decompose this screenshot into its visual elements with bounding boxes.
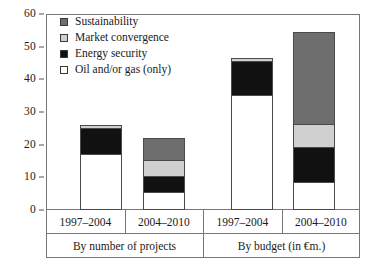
y-axis-tick-mark — [39, 112, 44, 113]
bar-segment-energy-security[interactable] — [81, 129, 121, 155]
y-axis-tick-label: 0 — [30, 204, 36, 216]
legend-swatch-icon — [60, 18, 68, 26]
x-axis-right-border — [359, 210, 360, 258]
legend-swatch-icon — [60, 50, 68, 58]
legend-swatch-icon — [60, 34, 68, 42]
x-axis-category-labels: 1997–20042004–20101997–20042004–2010 — [46, 210, 360, 234]
y-axis-tick-label: 20 — [24, 139, 36, 151]
bar-4[interactable] — [293, 32, 335, 210]
x-axis-separator-2 — [203, 210, 204, 234]
chart-legend: SustainabilityMarket convergenceEnergy s… — [60, 16, 171, 76]
legend-item-label: Sustainability — [75, 16, 138, 28]
bar-segment-oil-and-or-gas-only[interactable] — [232, 96, 272, 209]
x-axis-category-label-1: 1997–2004 — [46, 210, 125, 234]
y-axis-tick-mark — [39, 14, 44, 15]
x-axis-group-label-2: By budget (in €m.) — [203, 234, 360, 258]
bar-segment-energy-security[interactable] — [294, 148, 334, 184]
y-axis-tick-label: 60 — [24, 8, 36, 20]
bar-segment-energy-security[interactable] — [232, 62, 272, 96]
y-axis-tick-mark — [39, 177, 44, 178]
legend-item-3[interactable]: Oil and/or gas (only) — [60, 64, 171, 76]
y-axis-tick-mark — [39, 46, 44, 47]
bar-segment-market-convergence[interactable] — [144, 161, 184, 177]
bar-segment-oil-and-or-gas-only[interactable] — [144, 193, 184, 209]
x-axis-category-label-4: 2004–2010 — [282, 210, 361, 234]
stacked-bar-chart: 6050403020100 SustainabilityMarket conve… — [0, 0, 381, 280]
legend-swatch-icon — [60, 66, 68, 74]
bar-segment-energy-security[interactable] — [144, 177, 184, 193]
x-axis-group-separator — [203, 234, 204, 258]
bar-3[interactable] — [231, 58, 273, 210]
legend-item-0[interactable]: Sustainability — [60, 16, 171, 28]
legend-item-label: Market convergence — [75, 32, 169, 44]
bar-segment-oil-and-or-gas-only[interactable] — [294, 183, 334, 209]
y-axis-tick-label: 40 — [24, 74, 36, 86]
bar-segment-market-convergence[interactable] — [294, 125, 334, 148]
y-axis: 6050403020100 — [0, 0, 46, 215]
bar-1[interactable] — [80, 125, 122, 210]
y-axis-tick-label: 50 — [24, 41, 36, 53]
legend-item-2[interactable]: Energy security — [60, 48, 171, 60]
bar-segment-sustainability[interactable] — [144, 139, 184, 161]
y-axis-tick-label: 30 — [24, 106, 36, 118]
legend-item-label: Energy security — [75, 48, 147, 60]
bar-segment-oil-and-or-gas-only[interactable] — [81, 155, 121, 209]
x-axis-category-label-2: 2004–2010 — [125, 210, 204, 234]
x-axis-separator-1 — [125, 210, 126, 234]
bar-segment-sustainability[interactable] — [294, 33, 334, 125]
x-axis-group-labels: By number of projectsBy budget (in €m.) — [46, 234, 360, 258]
x-axis-separator-3 — [282, 210, 283, 234]
y-axis-tick-label: 10 — [24, 172, 36, 184]
y-axis-tick-mark — [39, 210, 44, 211]
x-axis-left-border — [46, 210, 47, 258]
bar-2[interactable] — [143, 138, 185, 210]
x-axis-group-label-1: By number of projects — [46, 234, 203, 258]
y-axis-tick-mark — [39, 144, 44, 145]
legend-item-label: Oil and/or gas (only) — [75, 64, 171, 76]
x-axis-category-label-3: 1997–2004 — [203, 210, 282, 234]
y-axis-tick-mark — [39, 79, 44, 80]
x-axis-bottom-border — [46, 257, 360, 258]
legend-item-1[interactable]: Market convergence — [60, 32, 171, 44]
